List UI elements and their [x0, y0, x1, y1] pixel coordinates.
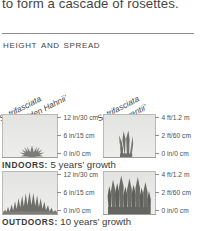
axis-tick-mid: 2 ft/60 cm [155, 132, 201, 141]
chart-row-indoors: 12 in/30 cm 6 in/15 cm 0 in/0 cm [0, 114, 201, 160]
plant-silhouette-tall-thicket [106, 174, 151, 214]
tick-dash-icon [155, 117, 159, 118]
axis-tick-bottom: 0 in/0 cm [57, 150, 102, 159]
plant-silhouette-spreading-mound [3, 190, 57, 214]
axis-tick-label: 12 in/30 cm [64, 171, 99, 178]
axis-tick-label: 4 ft/1.2 m [162, 171, 190, 178]
axis-tick-label: 2 ft/60 cm [162, 189, 191, 196]
axis-tick-mid: 6 in/15 cm [57, 189, 102, 198]
tick-dash-icon [155, 210, 159, 211]
chart-panel-golden-hahnii-indoors [2, 114, 58, 158]
caption-outdoors: OUTDOORS: 10 years’ growth [2, 216, 131, 227]
chart-panel-laurentii-outdoors [103, 171, 156, 215]
axis-tick-top: 4 ft/1.2 m [155, 171, 201, 180]
axis-tick-mid: 2 ft/60 cm [155, 189, 201, 198]
axis-tick-mid: 6 in/15 cm [57, 132, 102, 141]
axis-tick-label: 2 ft/60 cm [162, 132, 191, 139]
chart-row-outdoors: 12 in/30 cm 6 in/15 cm 0 in/0 cm [0, 171, 201, 217]
axis-tick-label: 6 in/15 cm [64, 189, 95, 196]
page-title: Height and Spread [3, 38, 100, 50]
axis-laurentii-indoors: 4 ft/1.2 m 2 ft/60 cm 0 in/0 cm [155, 112, 201, 160]
caption-label: OUTDOORS: [2, 217, 58, 227]
chart-baseline [103, 157, 156, 158]
axis-tick-label: 0 in/0 cm [64, 150, 91, 157]
chart-panel-golden-hahnii-outdoors [2, 171, 58, 215]
axis-tick-label: 4 ft/1.2 m [162, 114, 190, 121]
chart-panel-laurentii-indoors [103, 114, 156, 158]
caption-text: 10 years’ growth [60, 216, 131, 227]
tick-dash-icon [57, 210, 61, 211]
caption-label: INDOORS: [2, 160, 48, 170]
axis-tick-label: 0 in/0 cm [64, 207, 91, 214]
axis-tick-label: 12 in/30 cm [64, 114, 99, 121]
axis-tick-top: 4 ft/1.2 m [155, 114, 201, 123]
axis-tick-top: 12 in/30 cm [57, 171, 102, 180]
axis-tick-bottom: 0 in/0 cm [57, 207, 102, 216]
tick-dash-icon [57, 117, 61, 118]
tick-dash-icon [155, 153, 159, 154]
chart-baseline [2, 157, 58, 158]
section-divider [2, 33, 194, 34]
axis-tick-label: 6 in/15 cm [64, 132, 95, 139]
height-and-spread-figure: to form a cascade of rosettes. Height an… [0, 0, 201, 231]
axis-tick-label: 0 in/0 cm [162, 150, 189, 157]
axis-golden-hahnii-outdoors: 12 in/30 cm 6 in/15 cm 0 in/0 cm [57, 169, 102, 217]
axis-tick-bottom: 0 in/0 cm [155, 150, 201, 159]
chart-baseline [103, 214, 156, 215]
axis-tick-top: 12 in/30 cm [57, 114, 102, 123]
tick-dash-icon [155, 174, 159, 175]
chart-baseline [2, 214, 58, 215]
tick-dash-icon [57, 174, 61, 175]
tick-dash-icon [155, 135, 159, 136]
plant-silhouette-upright-clump [116, 130, 135, 157]
axis-laurentii-outdoors: 4 ft/1.2 m 2 ft/60 cm 0 in/0 cm [155, 169, 201, 217]
tick-dash-icon [155, 192, 159, 193]
plant-silhouette-low-rosette [19, 144, 43, 157]
tick-dash-icon [57, 153, 61, 154]
tick-dash-icon [57, 192, 61, 193]
runover-text: to form a cascade of rosettes. [2, 0, 201, 11]
axis-golden-hahnii-indoors: 12 in/30 cm 6 in/15 cm 0 in/0 cm [57, 112, 102, 160]
tick-dash-icon [57, 135, 61, 136]
axis-tick-bottom: 0 in/0 cm [155, 207, 201, 216]
axis-tick-label: 0 in/0 cm [162, 207, 189, 214]
